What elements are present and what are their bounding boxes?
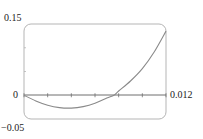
y-tick-label-bottom: −0.05 bbox=[1, 123, 24, 133]
x-tick-label-right: 0.012 bbox=[170, 90, 193, 100]
plot-area bbox=[0, 0, 203, 139]
y-tick-label-top: 0.15 bbox=[4, 13, 22, 23]
y-tick-label-zero: 0 bbox=[13, 90, 18, 100]
